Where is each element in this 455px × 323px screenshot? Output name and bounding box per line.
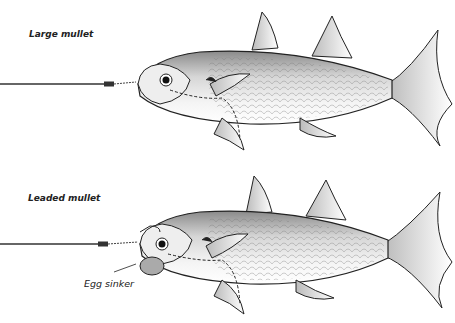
mullet-rig-illustration [0, 0, 455, 323]
label-leaded-mullet: Leaded mullet [28, 193, 100, 203]
label-large-mullet: Large mullet [29, 29, 93, 39]
callout-egg-sinker: Egg sinker [84, 278, 134, 289]
egg-sinker [140, 257, 164, 275]
